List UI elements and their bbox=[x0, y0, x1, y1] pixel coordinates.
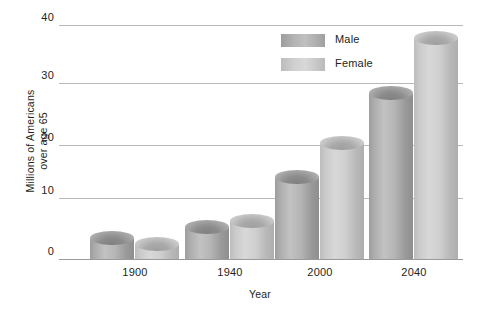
bar-cap bbox=[320, 136, 364, 150]
x-tick-label-2000: 2000 bbox=[280, 266, 360, 278]
bar-cap bbox=[135, 237, 179, 251]
gridline-40 bbox=[59, 25, 463, 26]
bar-body bbox=[369, 93, 413, 259]
bar-2040-male bbox=[369, 86, 413, 259]
x-tick-label-1900: 1900 bbox=[95, 266, 175, 278]
bar-1900-female bbox=[135, 237, 179, 259]
bar-2000-male bbox=[275, 170, 319, 259]
legend-label-female: Female bbox=[335, 57, 373, 69]
bar-2040-female bbox=[414, 31, 458, 259]
bar-body bbox=[320, 143, 364, 259]
bar-cap bbox=[90, 231, 134, 245]
x-axis-line bbox=[59, 259, 463, 260]
y-tick-label-0: 0 bbox=[26, 245, 54, 257]
bar-chart: 40 30 20 10 0 Millions of Americans over… bbox=[0, 0, 486, 310]
x-axis-title: Year bbox=[200, 288, 320, 300]
bar-cap bbox=[275, 170, 319, 184]
y-axis-title-line2: over age 65 bbox=[37, 112, 49, 170]
bar-1900-male bbox=[90, 231, 134, 259]
y-axis-title: Millions of Americans over age 65 bbox=[24, 56, 50, 226]
y-axis-title-line1: Millions of Americans bbox=[24, 90, 36, 193]
bar-body bbox=[414, 38, 458, 259]
legend-swatch-female bbox=[281, 58, 325, 71]
bar-cap bbox=[185, 220, 229, 234]
bar-1940-female bbox=[230, 214, 274, 259]
bar-cap bbox=[369, 86, 413, 100]
bar-body bbox=[275, 177, 319, 259]
bar-2000-female bbox=[320, 136, 364, 259]
legend-swatch-male bbox=[281, 34, 325, 47]
y-tick-label-40: 40 bbox=[26, 11, 54, 23]
gridline-30 bbox=[59, 83, 463, 84]
bar-1940-male bbox=[185, 220, 229, 259]
x-tick-label-1940: 1940 bbox=[190, 266, 270, 278]
bar-cap bbox=[230, 214, 274, 228]
bar-cap bbox=[414, 31, 458, 45]
legend-label-male: Male bbox=[335, 33, 360, 45]
x-tick-label-2040: 2040 bbox=[374, 266, 454, 278]
